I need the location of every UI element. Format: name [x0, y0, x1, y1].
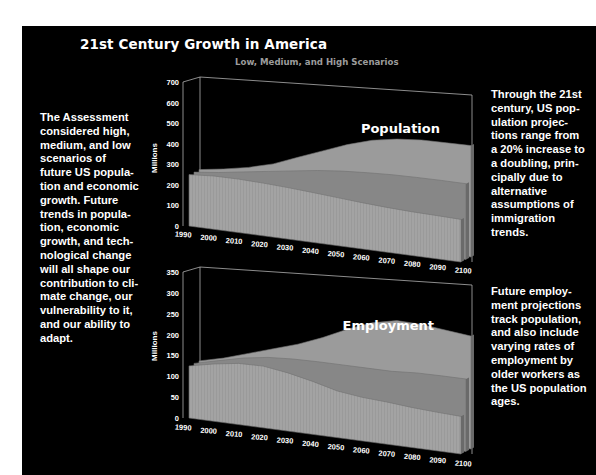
x-tick-label: 2080	[404, 259, 421, 269]
x-tick-label: 2000	[200, 233, 217, 243]
y-tick-label: 400	[166, 140, 179, 149]
x-tick-label: 2050	[327, 442, 344, 452]
y-tick-label: 300	[166, 289, 179, 298]
x-tick-label: 2050	[327, 249, 344, 259]
y-tick-label: 200	[166, 181, 179, 190]
x-tick-label: 2040	[302, 439, 319, 449]
x-tick-label: 2040	[302, 246, 319, 256]
population-chart: 0100200300400500600700Millions1990200020…	[150, 77, 474, 276]
x-tick-label: 2060	[353, 445, 370, 455]
employment-chart: 050100150200250300350Millions19902000201…	[150, 267, 474, 469]
y-tick-label: 350	[166, 268, 179, 277]
y-tick-label: 300	[166, 160, 179, 169]
x-tick-label: 2000	[200, 426, 217, 436]
charts-svg: 0100200300400500600700Millions1990200020…	[0, 0, 596, 475]
x-tick-label: 2030	[276, 243, 293, 253]
x-tick-label: 2010	[225, 429, 242, 439]
x-tick-label: 2100	[455, 458, 472, 468]
x-tick-label: 2020	[251, 239, 268, 249]
y-tick-label: 500	[166, 119, 179, 128]
x-tick-label: 2020	[251, 432, 268, 442]
x-tick-label: 2080	[404, 452, 421, 462]
x-tick-label: 2060	[353, 252, 370, 262]
y-tick-label: 250	[166, 310, 179, 319]
y-tick-label: 100	[166, 372, 179, 381]
chart-inline-label: Population	[361, 121, 440, 136]
x-tick-label: 1990	[175, 422, 192, 432]
chart-inline-label: Employment	[343, 318, 434, 333]
y-tick-label: 200	[166, 331, 179, 340]
x-tick-label: 2070	[378, 449, 395, 459]
y-tick-label: 150	[166, 351, 179, 360]
x-tick-label: 2030	[276, 436, 293, 446]
x-tick-label: 2100	[455, 265, 472, 275]
y-axis-label: Millions	[150, 331, 159, 361]
x-tick-label: 2090	[429, 262, 446, 272]
y-axis-label: Millions	[150, 143, 159, 173]
y-tick-label: 700	[166, 78, 179, 87]
y-tick-label: 600	[166, 99, 179, 108]
y-tick-label: 50	[171, 393, 179, 402]
x-tick-label: 1990	[175, 229, 192, 239]
x-tick-label: 2090	[429, 455, 446, 465]
y-tick-label: 100	[166, 201, 179, 210]
x-tick-label: 2010	[225, 236, 242, 246]
x-tick-label: 2070	[378, 256, 395, 266]
